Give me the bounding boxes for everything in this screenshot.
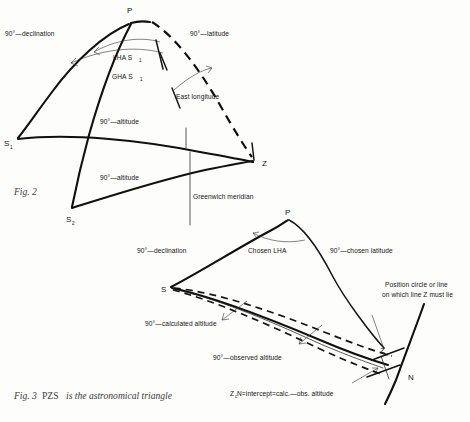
point-label-s2-fig2: S 2 bbox=[66, 215, 75, 226]
svg-text:Z: Z bbox=[380, 346, 385, 355]
svg-text:1: 1 bbox=[140, 77, 143, 82]
figure-3-group: P S Z c N 90°—declination Chosen LHA 90°… bbox=[13, 208, 453, 404]
label-altitude-lower: 90°—altitude bbox=[100, 174, 139, 181]
label-greenwich-meridian: Greenwich meridian bbox=[193, 193, 254, 200]
svg-text:2: 2 bbox=[72, 221, 75, 226]
label-declination-fig2: 90°—declination bbox=[5, 30, 55, 37]
lha-tick bbox=[156, 40, 163, 69]
figure-2-group: P Z S 1 S 2 90°—declination 90°—latitude… bbox=[4, 6, 267, 226]
altitude-arc-s1-z bbox=[18, 137, 253, 162]
svg-text:PZS: PZS bbox=[42, 390, 59, 401]
svg-text:N=intercept=calc.—obs. altitud: N=intercept=calc.—obs. altitude bbox=[237, 390, 334, 398]
arc-p-zc-latitude bbox=[289, 220, 384, 348]
label-chosen-lha: Chosen LHA bbox=[248, 247, 287, 254]
point-label-s-fig3: S bbox=[161, 285, 166, 294]
caption-fig3: Fig. 3 PZS is the astronomical triangle bbox=[13, 390, 173, 401]
label-position-circle-line-1: Position circle or line bbox=[385, 281, 448, 288]
svg-text:Fig. 3: Fig. 3 bbox=[13, 390, 37, 401]
label-declination-fig3: 90°—declination bbox=[137, 247, 187, 254]
caption-fig2: Fig. 2 bbox=[13, 186, 37, 197]
label-east-longitude: East longitude bbox=[176, 93, 219, 101]
east-longitude-arc bbox=[174, 68, 212, 90]
label-lha-fig2: LHA S 1 bbox=[113, 54, 142, 63]
label-position-circle-line-2: on which line Z must lie bbox=[382, 291, 453, 298]
greenwich-meridian-dashed bbox=[152, 22, 252, 157]
svg-text:S: S bbox=[4, 139, 9, 148]
leader-observed-altitude bbox=[299, 325, 322, 344]
svg-text:1: 1 bbox=[10, 145, 13, 150]
svg-text:is the astronomical triangle: is the astronomical triangle bbox=[66, 390, 173, 401]
leader-zc bbox=[372, 315, 384, 349]
point-label-p-fig3: P bbox=[285, 208, 290, 217]
point-label-n-fig3: N bbox=[408, 373, 414, 382]
svg-text:GHA S: GHA S bbox=[112, 73, 133, 80]
svg-text:LHA S: LHA S bbox=[113, 54, 133, 61]
label-gha-fig2: GHA S 1 bbox=[112, 73, 143, 82]
intercept-tick-2 bbox=[367, 365, 400, 377]
label-latitude-fig2: 90°—latitude bbox=[190, 30, 229, 37]
point-label-s1-fig2: S 1 bbox=[4, 139, 13, 150]
svg-text:S: S bbox=[66, 215, 71, 224]
point-label-p-fig2: P bbox=[127, 6, 132, 15]
label-intercept-formula: Z c N=intercept=calc.—obs. altitude bbox=[230, 390, 334, 399]
leader-intercept bbox=[352, 368, 378, 383]
svg-text:1: 1 bbox=[139, 58, 142, 63]
latitude-limb-tick bbox=[252, 143, 254, 160]
position-circle-line bbox=[385, 304, 424, 404]
label-observed-altitude: 90°—observed altitude bbox=[213, 354, 282, 361]
label-altitude-upper: 90°—altitude bbox=[100, 118, 139, 125]
point-label-z-fig2: Z bbox=[262, 159, 267, 168]
arc-observed-altitude-dashed-lower bbox=[173, 290, 384, 375]
altitude-arc-s2-z bbox=[72, 161, 253, 208]
label-chosen-latitude: 90°—chosen latitude bbox=[330, 247, 393, 254]
pole-cap-arc bbox=[131, 21, 150, 23]
chosen-lha-arc bbox=[253, 233, 305, 242]
label-calculated-altitude: 90°—calculated altitude bbox=[145, 320, 217, 327]
svg-text:Z: Z bbox=[230, 390, 234, 397]
astronomical-triangle-figures: P Z S 1 S 2 90°—declination 90°—latitude… bbox=[0, 0, 470, 422]
